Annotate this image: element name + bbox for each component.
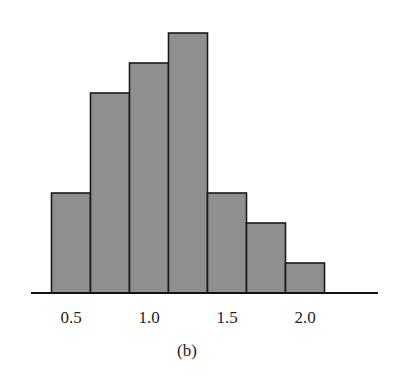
x-tick-label: 1.0 [138, 308, 159, 327]
histogram-bar [130, 63, 169, 293]
histogram-bar [286, 263, 325, 293]
histogram-chart: 0.51.01.52.0 (b) [0, 0, 401, 387]
x-tick-label: 1.5 [216, 308, 237, 327]
histogram-bar [208, 193, 247, 293]
histogram-bar [52, 193, 91, 293]
x-tick-label: 0.5 [60, 308, 81, 327]
histogram-bar [91, 93, 130, 293]
histogram-bars [52, 33, 325, 293]
figure-caption: (b) [177, 341, 197, 360]
histogram-bar [169, 33, 208, 293]
histogram-bar [247, 223, 286, 293]
x-tick-labels: 0.51.01.52.0 [60, 308, 315, 327]
x-tick-label: 2.0 [294, 308, 315, 327]
